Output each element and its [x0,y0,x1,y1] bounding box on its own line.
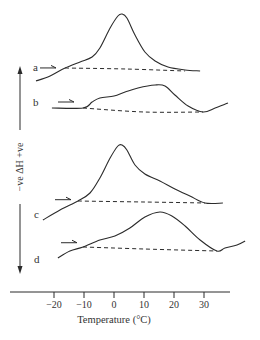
heating-direction-arrow-c-icon [55,197,71,200]
curve-a [36,14,200,81]
x-tick-label-0: 0 [112,299,117,310]
heating-direction-arrow-b-icon [58,100,74,103]
curve-label-c: c [34,208,39,220]
baseline-a [65,68,185,71]
baseline-b [83,108,203,112]
x-tick-label-10: 10 [139,299,149,310]
dsc-thermogram-chart: abcd −ve ΔH +ve −20−100102030 Temperatur… [0,0,260,340]
curve-d [58,212,245,258]
y-axis-label: −ve ΔH +ve [14,142,25,191]
x-tick-label-20: 20 [169,299,179,310]
x-tick-label--10: −10 [76,299,92,310]
x-tick-label--20: −20 [46,299,62,310]
heating-direction-arrow-a-icon [40,65,56,68]
y-axis: −ve ΔH +ve [14,66,25,274]
curve-c [43,144,223,220]
x-tick-label-30: 30 [199,299,209,310]
y-axis-down-arrow-icon [18,266,23,274]
heating-direction-arrow-d-icon [61,240,77,243]
curve-b [52,85,228,112]
curves-group: abcd [33,14,245,265]
curve-label-b: b [33,96,39,108]
baseline-c [78,201,205,203]
curve-label-d: d [34,253,40,265]
x-axis: −20−100102030 [10,292,230,310]
baseline-d [83,247,217,251]
curve-label-a: a [33,61,38,73]
y-axis-up-arrow-icon [18,66,23,74]
x-axis-title: Temperature (°C) [77,314,151,326]
